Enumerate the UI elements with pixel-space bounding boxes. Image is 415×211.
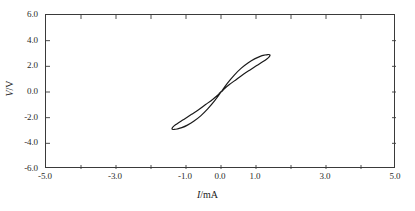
y-tick-label: 6.0 (0, 10, 38, 19)
x-tick-label: -3.0 (108, 172, 122, 181)
y-tick-label: -4.0 (0, 138, 38, 147)
plot-canvas (46, 15, 396, 169)
x-tick-label: -1.0 (178, 172, 192, 181)
x-tick-label: 3.0 (320, 172, 331, 181)
data-series-layer (172, 55, 270, 130)
y-axis-symbol: V (4, 90, 15, 96)
plot-frame (45, 14, 395, 168)
y-tick-label: -2.0 (0, 112, 38, 121)
x-tick-label: 5.0 (390, 172, 401, 181)
y-axis-title: V/V (4, 69, 15, 109)
x-tick-label: 1.0 (250, 172, 261, 181)
y-tick-label: -6.0 (0, 164, 38, 173)
x-tick-label: -5.0 (38, 172, 52, 181)
hysteresis-curve (172, 55, 270, 130)
y-axis-unit: /V (4, 80, 15, 90)
y-tick-label: 4.0 (0, 35, 38, 44)
x-axis-title: I/mA (0, 189, 415, 200)
x-tick-label: 0.0 (215, 172, 226, 181)
x-axis-unit: /mA (200, 189, 218, 200)
figure-container: 6.04.02.00.0-2.0-4.0-6.0 -5.0-3.0-1.00.0… (0, 0, 415, 211)
